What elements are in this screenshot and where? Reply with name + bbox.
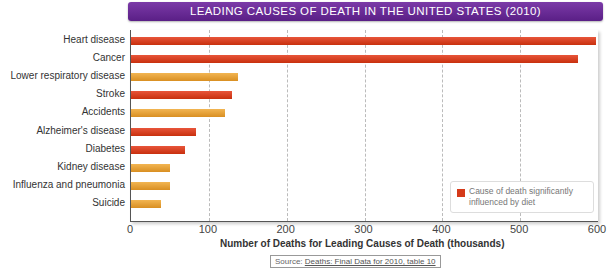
x-tick: 300 [354,223,372,235]
x-tick: 400 [432,223,450,235]
bar [131,91,232,99]
bar [131,182,170,190]
bar [131,146,185,154]
legend-label: Cause of death significantly influenced … [469,186,593,208]
bar [131,37,596,45]
x-tick: 200 [276,223,294,235]
x-tick: 0 [127,223,133,235]
bar [131,55,578,63]
x-tick: 500 [510,223,528,235]
category-label: Stroke [96,88,125,99]
bar [131,109,225,117]
category-label: Kidney disease [57,161,125,172]
category-label: Cancer [93,52,125,63]
source-link[interactable]: Deaths: Final Data for 2010, table 10 [305,257,436,266]
category-label: Lower respiratory disease [11,70,126,81]
bar [131,128,196,136]
category-label: Influenza and pneumonia [13,179,125,190]
chart-title: LEADING CAUSES OF DEATH IN THE UNITED ST… [128,2,603,21]
x-axis-label: Number of Deaths for Leading Causes of D… [220,238,504,249]
bar [131,164,170,172]
legend-swatch-diet [457,189,465,197]
category-label: Diabetes [86,143,125,154]
category-label: Alzheimer's disease [36,125,125,136]
x-tick: 100 [199,223,217,235]
category-label: Heart disease [63,34,125,45]
x-tick: 600 [588,223,606,235]
source-note: Source: Deaths: Final Data for 2010, tab… [270,255,441,268]
bar [131,73,238,81]
legend: Cause of death significantly influenced … [450,181,594,213]
category-label: Suicide [92,197,125,208]
bar [131,200,161,208]
category-label: Accidents [82,106,125,117]
